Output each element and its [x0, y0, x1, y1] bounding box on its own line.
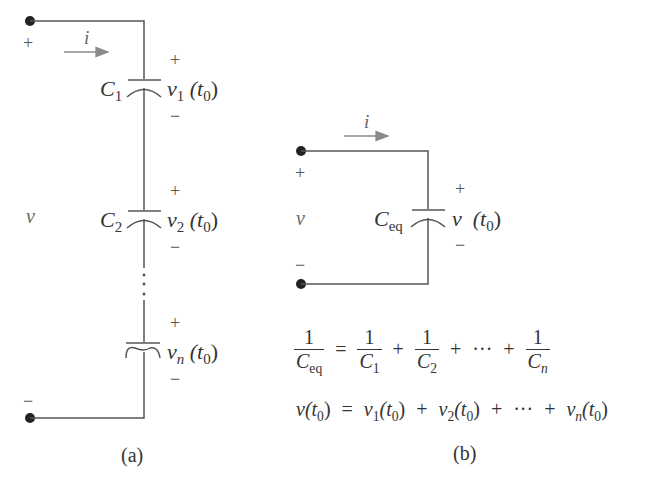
c2-plus: + [170, 182, 180, 200]
equivalent-circuit [296, 146, 445, 289]
ceq-minus: − [455, 236, 465, 254]
ellipsis-dots [143, 274, 146, 296]
source-plus-b: + [295, 164, 305, 182]
wire-bottom-a [30, 352, 144, 418]
ceq-label: Ceq [374, 208, 403, 234]
vn-label: vn (t0) [167, 341, 218, 367]
wire-bottom-b [301, 218, 428, 284]
v1-label: v1 (t0) [167, 78, 218, 104]
frac-c1: 1C1 [357, 326, 381, 377]
veq-label: v (t0) [452, 208, 501, 234]
cn-plus: + [170, 314, 180, 332]
c1-label: C1 [100, 78, 122, 104]
caption-b: (b) [453, 443, 476, 463]
frac-c2: 1C2 [415, 326, 439, 377]
current-label-b: i [364, 112, 369, 131]
frac-lhs: 1Ceq [294, 326, 324, 377]
series-circuit [25, 16, 161, 423]
source-minus-a: − [23, 392, 33, 410]
source-voltage-a: v [26, 206, 35, 226]
cn-minus: − [170, 370, 180, 388]
ceq-plus: + [455, 180, 465, 198]
c1-minus: − [170, 107, 180, 125]
frac-cn: 1Cn [526, 326, 550, 377]
source-minus-b: − [295, 256, 305, 274]
c1-plus: + [170, 51, 180, 69]
c2-minus: − [170, 238, 180, 256]
wire-top-b [301, 151, 428, 209]
caption-a: (a) [121, 445, 143, 465]
source-voltage-b: v [296, 208, 305, 228]
current-label-a: i [84, 28, 89, 47]
v2-label: v2 (t0) [167, 209, 218, 235]
c2-label: C2 [100, 209, 122, 235]
equation-capacitance: 1Ceq = 1C1 + 1C2 + ··· + 1Cn [294, 326, 550, 377]
source-plus-a: + [23, 34, 33, 52]
cn-plate-curved [126, 347, 160, 358]
equation-voltage: v(t0) = v1(t0) + v2(t0) + ··· + vn(t0) [296, 398, 608, 425]
